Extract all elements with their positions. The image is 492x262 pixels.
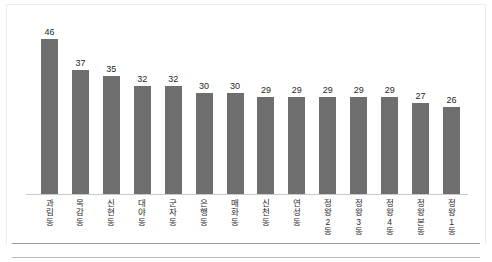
bar-value-label: 32: [128, 74, 157, 84]
bar: [227, 93, 244, 194]
tick-label-char: 동: [227, 218, 244, 227]
bar: [72, 70, 89, 194]
bar-group: 29: [288, 97, 305, 194]
bar: [257, 97, 274, 194]
bar-value-label: 30: [190, 81, 219, 91]
bar-group: 32: [165, 86, 182, 194]
bar: [443, 107, 460, 194]
bar-value-label: 27: [406, 91, 435, 101]
tick-label-char: 동: [165, 218, 182, 227]
bar-group: 27: [412, 103, 429, 194]
tick-label-char: 동: [257, 218, 274, 227]
bar-value-label: 32: [159, 74, 188, 84]
tick-label-char: 동: [134, 218, 151, 227]
bar: [319, 97, 336, 194]
bar: [196, 93, 213, 194]
bar-value-label: 29: [344, 85, 373, 95]
x-axis-tick-label: 은행동: [196, 199, 213, 227]
bar-group: 29: [381, 97, 398, 194]
x-axis-tick-label: 대야동: [134, 199, 151, 227]
x-axis-tick-label: 연성동: [288, 199, 305, 227]
x-axis-tick-label: 정왕1동: [443, 199, 460, 237]
x-axis-category-labels: 과림동목감동신현동대야동군자동은행동매화동신천동연성동정왕2동정왕3동정왕4동정…: [26, 199, 468, 245]
tick-label-char: 동: [41, 218, 58, 227]
bar-value-label: 35: [97, 64, 126, 74]
x-axis-tick-label: 매화동: [227, 199, 244, 227]
x-axis-tick-label: 정왕본동: [412, 199, 429, 237]
tick-label-char: 동: [319, 227, 336, 236]
bottom-rule-upper: [12, 243, 480, 244]
bar-value-label: 29: [282, 85, 311, 95]
bar-value-label: 26: [437, 95, 466, 105]
bar: [412, 103, 429, 194]
x-axis-tick-label: 군자동: [165, 199, 182, 227]
tick-label-char: 동: [443, 227, 460, 236]
x-axis-tick-label: 신현동: [103, 199, 120, 227]
frame-top-border: [6, 4, 486, 5]
x-axis-tick-label: 정왕4동: [381, 199, 398, 237]
tick-label-char: 동: [381, 227, 398, 236]
x-axis-tick-label: 목감동: [72, 199, 89, 227]
frame-right-border: [485, 4, 486, 244]
x-axis-tick-label: 과림동: [41, 199, 58, 227]
bar-group: 35: [103, 76, 120, 194]
x-axis-tick-label: 정왕3동: [350, 199, 367, 237]
bar-group: 30: [196, 93, 213, 194]
bar-group: 46: [41, 39, 58, 194]
bar-group: 29: [350, 97, 367, 194]
x-axis-tick-label: 정왕2동: [319, 199, 336, 237]
bar-group: 29: [257, 97, 274, 194]
x-axis-tick-label: 신천동: [257, 199, 274, 227]
bar: [103, 76, 120, 194]
tick-label-char: 동: [103, 218, 120, 227]
bar: [134, 86, 151, 194]
bar-chart-figure: 4637353232303029292929292726 과림동목감동신현동대야…: [0, 0, 492, 262]
bar: [288, 97, 305, 194]
tick-label-char: 동: [350, 227, 367, 236]
bottom-rule-lower: [12, 257, 480, 258]
bar-group: 29: [319, 97, 336, 194]
bar-value-label: 37: [66, 58, 95, 68]
plot-area: 4637353232303029292929292726: [26, 10, 468, 195]
bar-value-label: 29: [375, 85, 404, 95]
tick-label-char: 동: [196, 218, 213, 227]
bar-value-label: 46: [35, 27, 64, 37]
tick-label-char: 동: [288, 218, 305, 227]
x-axis-line: [26, 194, 468, 195]
bar: [350, 97, 367, 194]
bar-value-label: 29: [251, 85, 280, 95]
bar: [165, 86, 182, 194]
bar-group: 30: [227, 93, 244, 194]
bar-group: 37: [72, 70, 89, 194]
tick-label-char: 동: [72, 218, 89, 227]
bar-group: 32: [134, 86, 151, 194]
frame-left-border: [6, 4, 7, 244]
bar-value-label: 29: [313, 85, 342, 95]
bar: [41, 39, 58, 194]
bar-group: 26: [443, 107, 460, 194]
bar-value-label: 30: [221, 81, 250, 91]
tick-label-char: 동: [412, 227, 429, 236]
bar: [381, 97, 398, 194]
